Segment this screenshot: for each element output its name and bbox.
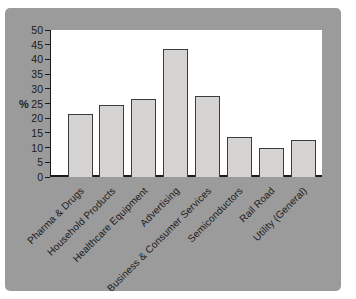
y-axis-tick-label: 10 — [21, 142, 43, 154]
bar — [195, 96, 220, 177]
y-axis-unit-label: % — [19, 98, 29, 110]
y-axis-tick-label: 20 — [21, 112, 43, 124]
y-axis-tick-label: 15 — [21, 127, 43, 139]
y-axis-tick-label: 50 — [21, 24, 43, 36]
y-axis-tick-label: 35 — [21, 68, 43, 80]
bar — [99, 105, 124, 177]
y-axis-tick-label: 45 — [21, 39, 43, 51]
x-category-label: Semiconductors — [186, 185, 245, 244]
y-axis-tick-label: 30 — [21, 83, 43, 95]
bar — [291, 140, 316, 177]
bar — [259, 148, 284, 177]
bar — [131, 99, 156, 177]
y-axis-tick-label: 5 — [21, 156, 43, 168]
bar — [68, 114, 93, 177]
y-axis-tick — [45, 74, 50, 75]
y-axis-tick — [45, 132, 50, 133]
y-axis-tick-label: 0 — [21, 171, 43, 183]
y-axis-tick — [45, 44, 50, 45]
y-axis-tick — [45, 147, 50, 148]
y-axis-tick — [45, 30, 50, 31]
bar — [163, 49, 188, 177]
y-axis-tick — [45, 177, 50, 178]
y-axis-tick — [45, 162, 50, 163]
bar — [227, 137, 252, 177]
y-axis-tick-label: 40 — [21, 53, 43, 65]
y-axis-tick — [45, 118, 50, 119]
y-axis-tick — [45, 88, 50, 89]
y-axis-tick — [45, 103, 50, 104]
x-category-label: Pharma & Drugs — [25, 185, 86, 246]
y-axis-tick — [45, 59, 50, 60]
chart-panel: 05101520253035404550 % Pharma & DrugsHou… — [5, 8, 341, 291]
